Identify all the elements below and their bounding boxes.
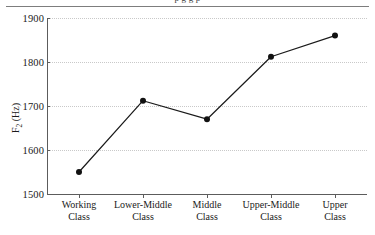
x-axis-tick-label: UpperClass xyxy=(292,199,375,222)
y-axis-tick-mark xyxy=(47,106,50,107)
data-point-marker xyxy=(204,116,210,122)
x-axis-tick-label-line: Class xyxy=(292,211,375,223)
data-point-marker xyxy=(268,54,274,60)
y-axis-tick-mark xyxy=(47,194,50,195)
data-point-marker xyxy=(76,169,82,175)
y-axis-tick-mark xyxy=(47,150,50,151)
y-axis-tick-mark xyxy=(47,18,50,19)
x-axis-tick-label-line: Upper xyxy=(292,199,375,211)
figure-container: p g g p F2 (Hz) 15001600170018001900 Wor… xyxy=(0,0,375,235)
x-axis-tick-mark xyxy=(79,194,80,198)
x-axis-tick-mark xyxy=(207,194,208,198)
x-axis-tick-mark xyxy=(335,194,336,198)
data-point-marker xyxy=(332,33,338,39)
x-axis-tick-mark xyxy=(143,194,144,198)
y-axis-tick-mark xyxy=(47,62,50,63)
x-axis-tick-mark xyxy=(271,194,272,198)
data-point-marker xyxy=(140,98,146,104)
